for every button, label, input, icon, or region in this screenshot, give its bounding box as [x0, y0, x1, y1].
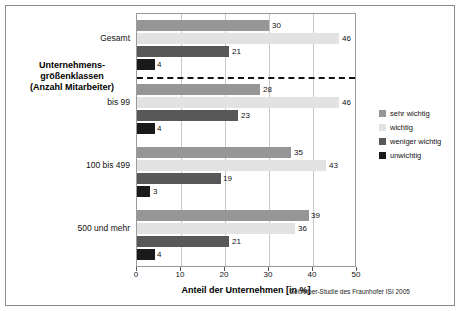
category-label-gesamt: Gesamt: [30, 33, 130, 43]
y-axis-title-line-2: größenklassen: [14, 71, 130, 82]
bar-100bis499-wichtig: [137, 160, 326, 171]
y-axis-title-line-1: Unternehmens-: [14, 60, 130, 71]
bar-value-gesamt-wichtig: 46: [342, 33, 351, 44]
group-separator-dashed-line: [137, 77, 355, 79]
x-tick-label-30: 30: [256, 270, 280, 279]
bar-bis99-wichtig: [137, 97, 339, 108]
legend-label-weniger-wichtig: weniger wichtig: [390, 137, 441, 146]
bar-value-500undmehr-wichtig: 36: [298, 223, 307, 234]
y-axis-title: Unternehmens- größenklassen (Anzahl Mita…: [14, 60, 130, 93]
bar-value-gesamt-unwichtig: 4: [157, 59, 161, 70]
bar-value-bis99-weniger-wichtig: 23: [241, 110, 250, 121]
legend-swatch-wichtig-icon: [379, 124, 386, 131]
bar-value-100bis499-sehr-wichtig: 35: [294, 147, 303, 158]
bar-bis99-sehr-wichtig: [137, 84, 260, 95]
bar-500undmehr-unwichtig: [137, 249, 155, 260]
gridline-40: [313, 14, 314, 266]
legend-swatch-unwichtig-icon: [379, 152, 386, 159]
legend-swatch-weniger-wichtig-icon: [379, 138, 386, 145]
chart-figure: 30 46 21 4 28 46 23 4 35 43 19 3 39 36 2…: [0, 0, 460, 311]
bar-value-bis99-unwichtig: 4: [157, 123, 161, 134]
legend-label-wichtig: wichtig: [390, 123, 413, 132]
legend-swatch-sehr-wichtig-icon: [379, 110, 386, 117]
y-axis-title-line-3: (Anzahl Mitarbeiter): [14, 82, 130, 93]
bar-500undmehr-sehr-wichtig: [137, 210, 309, 221]
bar-gesamt-wichtig: [137, 33, 339, 44]
legend: sehr wichtig wichtig weniger wichtig unw…: [379, 107, 441, 163]
bar-value-gesamt-sehr-wichtig: 30: [272, 20, 281, 31]
bar-bis99-unwichtig: [137, 123, 155, 134]
bar-value-100bis499-wichtig: 43: [329, 160, 338, 171]
legend-item-unwichtig: unwichtig: [379, 149, 441, 162]
bar-bis99-weniger-wichtig: [137, 110, 238, 121]
category-label-bis-99: bis 99: [30, 97, 130, 107]
legend-label-unwichtig: unwichtig: [390, 151, 421, 160]
bar-500undmehr-wichtig: [137, 223, 295, 234]
bar-value-500undmehr-unwichtig: 4: [157, 249, 161, 260]
bar-value-gesamt-weniger-wichtig: 21: [232, 46, 241, 57]
legend-item-sehr-wichtig: sehr wichtig: [379, 107, 441, 120]
bar-value-500undmehr-weniger-wichtig: 21: [232, 236, 241, 247]
bar-100bis499-weniger-wichtig: [137, 173, 221, 184]
x-tick-label-10: 10: [168, 270, 192, 279]
bar-value-100bis499-weniger-wichtig: 19: [223, 173, 232, 184]
plot-area: 30 46 21 4 28 46 23 4 35 43 19 3 39 36 2…: [136, 13, 356, 267]
bar-gesamt-unwichtig: [137, 59, 155, 70]
bar-value-100bis499-unwichtig: 3: [153, 186, 157, 197]
bar-gesamt-sehr-wichtig: [137, 20, 269, 31]
bar-500undmehr-weniger-wichtig: [137, 236, 229, 247]
legend-item-wichtig: wichtig: [379, 121, 441, 134]
bar-value-500undmehr-sehr-wichtig: 39: [311, 210, 320, 221]
x-tick-label-0: 0: [124, 270, 148, 279]
legend-label-sehr-wichtig: sehr wichtig: [390, 109, 430, 118]
category-label-100-bis-499: 100 bis 499: [30, 160, 130, 170]
bar-value-bis99-wichtig: 46: [342, 97, 351, 108]
x-tick-label-50: 50: [344, 270, 368, 279]
category-label-500-und-mehr: 500 und mehr: [30, 223, 130, 233]
bar-value-bis99-sehr-wichtig: 28: [263, 84, 272, 95]
legend-item-weniger-wichtig: weniger wichtig: [379, 135, 441, 148]
bar-100bis499-sehr-wichtig: [137, 147, 291, 158]
x-tick-label-20: 20: [212, 270, 236, 279]
bar-100bis499-unwichtig: [137, 186, 150, 197]
bar-gesamt-weniger-wichtig: [137, 46, 229, 57]
source-note: Zeitreiber-Studie des Fraunhofer ISI 200…: [290, 288, 410, 295]
x-tick-label-40: 40: [300, 270, 324, 279]
